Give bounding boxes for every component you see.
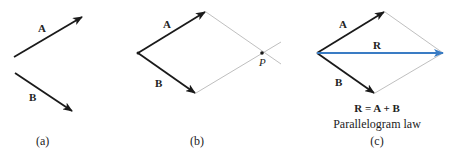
vector-a-arrow <box>14 17 82 57</box>
point-p-label: P <box>258 56 266 68</box>
vector-b-label: B <box>155 77 163 89</box>
parallelogram-law-text: Parallelogram law <box>333 117 421 131</box>
vector-addition-figure: A B (a) A B P (b) A B R R = A + B Parall… <box>0 0 454 161</box>
resultant-r-label: R <box>373 39 382 51</box>
panel-b: A B P (b) <box>137 12 282 148</box>
vector-a-label: A <box>38 22 46 34</box>
construction-line-a <box>206 12 281 64</box>
panel-c-caption: (c) <box>370 134 383 148</box>
vector-a-label: A <box>163 18 171 30</box>
origin-dot <box>137 52 140 55</box>
vector-a-label: A <box>339 18 347 30</box>
vector-b-arrow <box>15 73 72 111</box>
construction-line-b <box>375 53 443 93</box>
vector-b-arrow <box>317 53 374 93</box>
panel-b-caption: (b) <box>190 134 204 148</box>
vector-b-label: B <box>335 76 343 88</box>
construction-line-a <box>385 12 443 53</box>
panel-c: A B R R = A + B Parallelogram law (c) <box>317 12 443 148</box>
vector-a-arrow <box>138 12 205 53</box>
vector-b-arrow <box>138 53 195 93</box>
construction-line-b <box>196 42 281 93</box>
panel-a: A B (a) <box>14 17 82 148</box>
equation-text: R = A + B <box>354 102 400 114</box>
panel-a-caption: (a) <box>36 134 49 148</box>
vector-b-label: B <box>29 91 37 103</box>
point-p-dot <box>260 51 264 55</box>
